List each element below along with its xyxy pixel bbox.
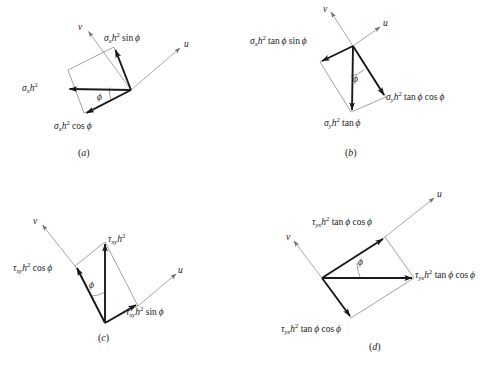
phi-glyph: ϕ — [302, 36, 307, 46]
v-axis-label: v — [286, 232, 290, 242]
resultant-label: σyh2 tan ϕ — [324, 118, 360, 128]
phi-glyph: ϕ — [448, 270, 453, 280]
tan-glyph: tan — [404, 92, 416, 102]
caption-paren-close: ) — [106, 332, 109, 343]
component-1-label: σxh2 sin ϕ — [104, 33, 140, 43]
exponent-glyph: 2 — [27, 261, 30, 268]
u-axis-line — [385, 198, 434, 237]
resultant-label: τyxh2 tan ϕ cos ϕ — [415, 270, 475, 280]
sin-glyph: sin — [146, 307, 157, 317]
component-1-vector — [116, 50, 132, 90]
phi-angle-label: ϕ — [353, 74, 358, 84]
tan-glyph: tan — [342, 118, 354, 128]
v-axis-label: v — [78, 22, 82, 32]
exponent-glyph: 2 — [295, 322, 298, 329]
exponent-glyph: 2 — [262, 34, 265, 41]
exponent-glyph: 2 — [116, 31, 119, 38]
component-1-label: τxyh2 cos ϕ — [13, 263, 52, 273]
component-2-label: τyxh2 tan ϕ cos ϕ — [281, 324, 341, 334]
panel-caption-b: (b) — [345, 147, 357, 158]
phi-glyph: ϕ — [314, 324, 319, 334]
phi-angle-label: ϕ — [89, 280, 94, 290]
component-2-label: σxh2 cos ϕ — [54, 121, 92, 131]
sigma-glyph: σ — [386, 92, 391, 102]
subscript-glyph: y — [391, 96, 394, 103]
caption-paren-close: ) — [86, 147, 89, 158]
resultant-vector — [70, 89, 132, 90]
exponent-glyph: 2 — [66, 119, 69, 126]
phi-glyph: ϕ — [159, 307, 164, 317]
caption-paren-close: ) — [377, 341, 380, 352]
cos-glyph: cos — [33, 263, 46, 273]
sigma-glyph: σ — [324, 118, 329, 128]
component-1-vector — [77, 268, 105, 323]
component-1-label: τyxh2 tan ϕ cos ϕ — [312, 217, 372, 227]
subscript-glyph: xy — [16, 267, 22, 274]
phi-glyph: ϕ — [47, 263, 52, 273]
v-axis-line — [331, 12, 353, 46]
v-axis-label: v — [323, 4, 327, 14]
u-axis-label: u — [178, 265, 183, 275]
subscript-glyph: xy — [111, 238, 117, 245]
subscript-glyph: x — [109, 37, 112, 44]
sigma-glyph: σ — [54, 121, 59, 131]
tan-glyph: tan — [301, 324, 313, 334]
phi-glyph: ϕ — [135, 33, 140, 43]
v-axis-label: v — [33, 216, 37, 226]
stress-force-figure: v u σxh2 σxh2 sin ϕ σxh2 cos ϕ ϕ (a) — [0, 0, 494, 368]
phi-glyph: ϕ — [418, 92, 423, 102]
phi-glyph: ϕ — [470, 270, 475, 280]
tan-glyph: tan — [435, 270, 447, 280]
phi-glyph: ϕ — [336, 324, 341, 334]
u-axis-line — [353, 27, 380, 46]
component-1-label: σxh2 tan ϕ sin ϕ — [250, 36, 307, 46]
panel-a: v u σxh2 σxh2 sin ϕ σxh2 cos ϕ ϕ (a) — [0, 0, 247, 184]
caption-paren-close: ) — [353, 147, 356, 158]
exponent-glyph: 2 — [34, 81, 37, 88]
sigma-glyph: σ — [104, 33, 109, 43]
component-2-vector — [322, 278, 350, 316]
exponent-glyph: 2 — [429, 268, 432, 275]
component-2-vector — [353, 46, 384, 95]
subscript-glyph: x — [59, 125, 62, 132]
resultant-label: τxyh2 — [108, 234, 125, 244]
subscript-glyph: x — [27, 87, 30, 94]
cos-glyph: cos — [322, 324, 335, 334]
panel-b-graphic — [247, 0, 494, 184]
panel-b: v u σxh2 tan ϕ sin ϕ σyh2 tan ϕ cos ϕ σy… — [247, 0, 494, 184]
subscript-glyph: yx — [284, 328, 290, 335]
sigma-glyph: σ — [22, 83, 27, 93]
exponent-glyph: 2 — [140, 305, 143, 312]
panel-caption-c: (c) — [98, 332, 109, 343]
component-1-vector — [322, 239, 383, 278]
phi-glyph: ϕ — [356, 118, 361, 128]
phi-arc — [92, 292, 105, 296]
subscript-glyph: y — [329, 122, 332, 129]
subscript-glyph: x — [255, 40, 258, 47]
cos-glyph: cos — [425, 92, 438, 102]
u-axis-line — [138, 274, 176, 306]
panel-c: v u τxyh2 τxyh2 cos ϕ τxyh2 sin ϕ ϕ (c) — [0, 184, 247, 368]
u-axis-label: u — [383, 18, 388, 28]
phi-glyph: ϕ — [439, 92, 444, 102]
phi-angle-label: ϕ — [358, 257, 363, 267]
resultant-label: σxh2 — [22, 83, 38, 93]
element-outline — [68, 47, 131, 113]
panel-caption-a: (a) — [78, 147, 90, 158]
u-axis-label: u — [437, 189, 442, 199]
sin-glyph: sin — [122, 33, 133, 43]
sin-glyph: sin — [289, 36, 300, 46]
component-1-vector — [322, 46, 353, 61]
phi-glyph: ϕ — [345, 217, 350, 227]
component-2-vector — [87, 90, 132, 113]
v-axis-line — [43, 225, 76, 266]
tan-glyph: tan — [332, 217, 344, 227]
tan-glyph: tan — [268, 36, 280, 46]
exponent-glyph: 2 — [326, 215, 329, 222]
panel-d: v u τyxh2 tan ϕ cos ϕ τyxh2 tan ϕ cos ϕ … — [247, 184, 494, 368]
phi-glyph: ϕ — [87, 121, 92, 131]
phi-glyph: ϕ — [282, 36, 287, 46]
sigma-glyph: σ — [250, 36, 255, 46]
phi-angle-label: ϕ — [97, 92, 102, 102]
panel-c-graphic — [0, 184, 247, 368]
